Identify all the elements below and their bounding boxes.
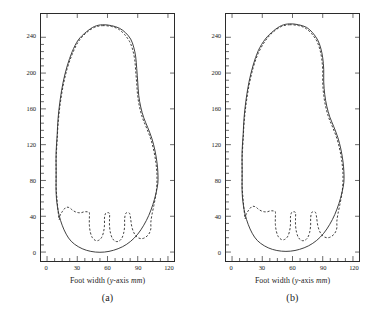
y-tick-label: 0 xyxy=(33,250,36,257)
y-tick-label: 200 xyxy=(27,69,36,76)
y-tick-label: 80 xyxy=(30,178,36,185)
series-solid-outline xyxy=(56,25,158,253)
series-solid-outline xyxy=(242,24,344,252)
y-tick-label: 120 xyxy=(27,141,36,148)
x-axis-title-b: Foot width (y-axis mm) xyxy=(225,276,360,285)
panel-a: Foot lenght (x-axis mm) 0408012016020024… xyxy=(0,0,188,313)
x-tick-label: 120 xyxy=(349,265,358,272)
x-axis-title-a: Foot width (y-axis mm) xyxy=(40,276,175,285)
panel-b: Foot lenght (x-axis mm) 0408012016020024… xyxy=(189,0,377,313)
y-tick-label: 240 xyxy=(212,33,221,40)
panel-caption-a: (a) xyxy=(40,292,175,303)
y-tick-label: 0 xyxy=(218,250,221,257)
x-tick-label: 120 xyxy=(164,265,173,272)
y-tick-label: 240 xyxy=(27,33,36,40)
y-tick-label: 80 xyxy=(215,178,221,185)
x-tick-label: 90 xyxy=(135,265,141,272)
x-tick-label: 60 xyxy=(289,265,295,272)
x-tick-label: 0 xyxy=(45,265,48,272)
plot-area-a xyxy=(40,13,175,262)
x-tick-label: 0 xyxy=(230,265,233,272)
x-tick-label: 30 xyxy=(259,265,265,272)
x-tick-label: 30 xyxy=(74,265,80,272)
y-tick-label: 160 xyxy=(212,105,221,112)
plot-svg-a xyxy=(41,14,174,261)
plot-area-b xyxy=(225,13,360,262)
figure-foot-outlines: Foot lenght (x-axis mm) 0408012016020024… xyxy=(0,0,377,313)
y-tick-label: 40 xyxy=(215,214,221,221)
y-tick-label: 120 xyxy=(212,141,221,148)
x-tick-label: 60 xyxy=(104,265,110,272)
plot-svg-b xyxy=(226,14,359,261)
x-tick-label: 90 xyxy=(320,265,326,272)
panel-caption-b: (b) xyxy=(225,292,360,303)
series-dashed-outline-with-toes xyxy=(242,25,343,241)
series-dashed-outline-with-toes xyxy=(56,26,157,242)
y-tick-label: 160 xyxy=(27,105,36,112)
y-tick-label: 40 xyxy=(30,214,36,221)
y-tick-label: 200 xyxy=(212,69,221,76)
